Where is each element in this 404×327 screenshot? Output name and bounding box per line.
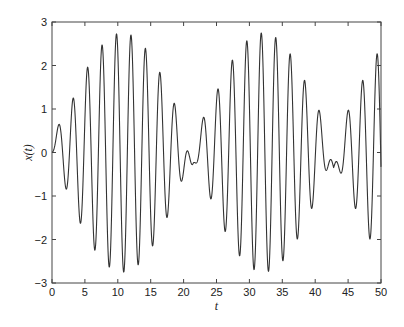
x-tick-label: 35 [276,286,288,298]
line-chart: 05101520253035404550−3−2−10123 t x(t) [0,0,404,327]
x-tick-label: 25 [210,286,222,298]
y-tick-label: 1 [41,103,47,115]
y-tick-label: 0 [41,147,47,159]
x-tick-label: 20 [177,286,189,298]
x-tick-label: 15 [145,286,157,298]
x-tick-label: 45 [342,286,354,298]
x-tick-label: 40 [309,286,321,298]
y-axis-label: x(t) [21,144,35,162]
y-tick-label: −3 [34,277,47,289]
y-tick-label: 2 [41,60,47,72]
x-tick-label: 0 [49,286,55,298]
y-tick-label: −2 [34,234,47,246]
x-tick-label: 10 [112,286,124,298]
y-tick-label: −1 [34,190,47,202]
x-tick-label: 5 [82,286,88,298]
x-tick-label: 50 [375,286,387,298]
y-tick-label: 3 [41,16,47,28]
x-tick-label: 30 [243,286,255,298]
